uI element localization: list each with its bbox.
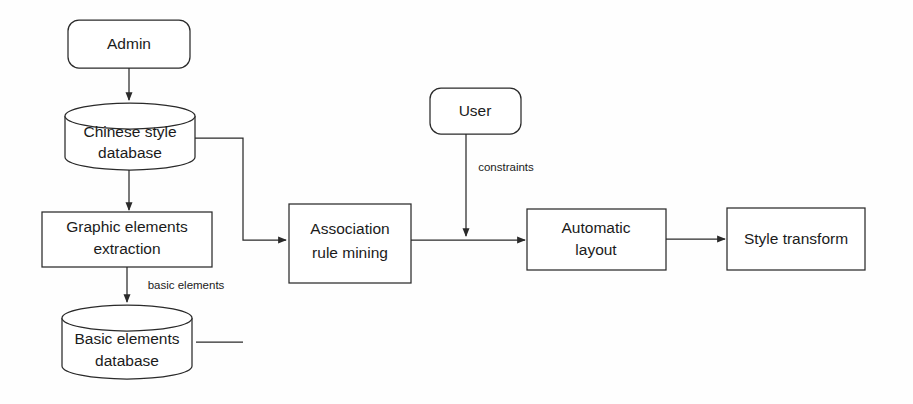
edge-label-basic-elements: basic elements [148, 279, 225, 291]
chinese-db-label-line2: database [98, 144, 162, 161]
edge-label-constraints: constraints [478, 161, 534, 173]
admin-label: Admin [107, 35, 151, 52]
basic-db-top[interactable] [62, 305, 192, 331]
automatic-layout-label-line1: Automatic [562, 219, 631, 236]
style-transform-label: Style transform [744, 230, 848, 247]
association-label-line1: Association [310, 220, 389, 237]
node-basic-elements-database[interactable]: Basic elements database [62, 305, 192, 379]
connectors [127, 68, 725, 342]
association-label-line2: rule mining [312, 244, 388, 261]
chinese-db-label-line1: Chinese style [83, 123, 176, 140]
node-chinese-style-database[interactable]: Chinese style database [65, 103, 195, 170]
node-association-rule-mining[interactable]: Association rule mining [289, 204, 411, 283]
basic-db-label-line1: Basic elements [74, 330, 179, 347]
flowchart-diagram: Admin Chinese style database Graphic ele… [0, 0, 913, 404]
user-label: User [459, 102, 492, 119]
graphic-extraction-label-line1: Graphic elements [66, 218, 188, 235]
node-user[interactable]: User [430, 88, 521, 134]
node-style-transform[interactable]: Style transform [727, 208, 865, 270]
node-graphic-elements-extraction[interactable]: Graphic elements extraction [42, 212, 212, 267]
graphic-extraction-label-line2: extraction [93, 240, 160, 257]
diagram-canvas: Admin Chinese style database Graphic ele… [0, 0, 913, 404]
automatic-layout-label-line2: layout [575, 241, 617, 258]
node-admin[interactable]: Admin [68, 20, 190, 68]
basic-db-label-line2: database [95, 352, 159, 369]
node-automatic-layout[interactable]: Automatic layout [527, 209, 666, 270]
